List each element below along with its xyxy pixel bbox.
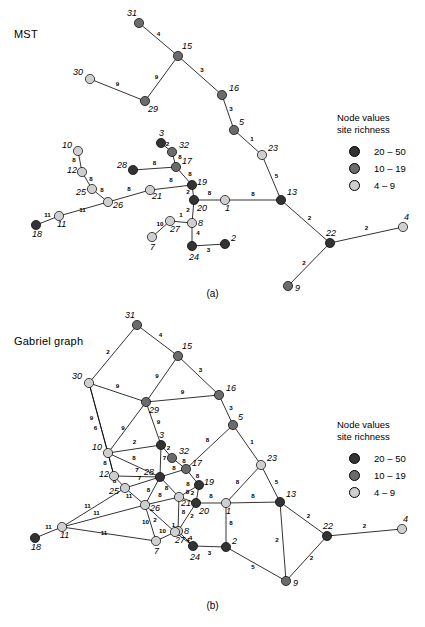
graph-node[interactable] (155, 472, 164, 481)
graph-edge (327, 529, 402, 536)
graph-node[interactable] (187, 180, 196, 189)
graph-node[interactable] (84, 378, 93, 387)
graph-node[interactable] (85, 74, 94, 83)
graph-node[interactable] (151, 536, 160, 545)
edge-weight-label: 2 (310, 554, 314, 561)
graph-node[interactable] (398, 222, 407, 231)
graph-node[interactable] (276, 195, 285, 204)
node-label: 11 (57, 219, 66, 229)
graph-node[interactable] (173, 351, 182, 360)
legend-a: Node values site richness 20 – 50 10 – 1… (337, 112, 406, 194)
edge-weight-label: 8 (169, 176, 173, 183)
legend-b-label-high: 20 – 50 (374, 453, 406, 464)
graph-node[interactable] (128, 165, 137, 174)
node-label: 17 (182, 156, 193, 166)
edge-weight-label: 8 (158, 491, 162, 498)
graph-node[interactable] (221, 542, 230, 551)
legend-a-head-1: Node values (337, 112, 406, 124)
graph-node[interactable] (156, 440, 165, 449)
graph-edge (178, 56, 222, 95)
graph-node[interactable] (134, 18, 143, 27)
graph-node[interactable] (132, 320, 141, 329)
edge-weight-label: 1 (179, 211, 183, 218)
graph-node[interactable] (281, 576, 290, 585)
edge-weight-label: 8 (236, 478, 240, 485)
graph-edge (234, 130, 262, 155)
node-label: 30 (72, 371, 82, 381)
legend-a-row-low: 4 – 9 (337, 177, 406, 194)
graph-node[interactable] (181, 464, 190, 473)
graph-node[interactable] (257, 150, 266, 159)
graph-node[interactable] (140, 500, 149, 509)
graph-node[interactable] (229, 125, 238, 134)
edge-weight-label: 7 (163, 454, 167, 461)
graph-node[interactable] (188, 541, 197, 550)
edge-weight-label: 2 (153, 516, 157, 523)
edge-weight-label: 8 (147, 486, 151, 493)
node-label: 5 (239, 117, 245, 127)
edge-weight-label: 11 (44, 211, 51, 218)
node-label: 18 (31, 542, 41, 552)
graph-node[interactable] (220, 239, 229, 248)
graph-node[interactable] (397, 524, 406, 533)
edge-weight-label: 11 (79, 206, 86, 213)
graph-node[interactable] (187, 218, 196, 227)
graph-node[interactable] (217, 90, 226, 99)
node-label: 32 (179, 140, 189, 150)
graph-node[interactable] (73, 146, 82, 155)
graph-node[interactable] (187, 241, 196, 250)
graph-node[interactable] (171, 162, 180, 171)
edge-weight-label: 11 (84, 502, 91, 509)
node-label: 23 (267, 143, 278, 153)
legend-b-row-mid: 10 – 19 (337, 467, 406, 484)
edge-weight-label: 2 (363, 522, 367, 529)
edge-weight-label: 10 (157, 220, 164, 227)
graph-edge (146, 356, 178, 402)
graph-node[interactable] (214, 390, 223, 399)
legend-a-label-high: 20 – 50 (374, 146, 406, 157)
graph-node[interactable] (87, 184, 96, 193)
edge-weight-label: 9 (116, 382, 120, 389)
graph-node[interactable] (275, 497, 284, 506)
graph-node[interactable] (228, 420, 237, 429)
edge-weight-label: 8 (251, 190, 255, 197)
graph-node[interactable] (173, 51, 182, 60)
edge-weight-label: 2 (190, 512, 194, 519)
graph-node[interactable] (103, 448, 112, 457)
graph-edge (233, 425, 261, 465)
panel-b-caption: (b) (0, 600, 425, 611)
edge-weight-label: 8 (186, 488, 190, 495)
edge-weight-label: 11 (93, 509, 100, 516)
graph-node[interactable] (156, 138, 165, 147)
edge-weight-label: 8 (182, 457, 186, 464)
graph-edge (62, 505, 145, 527)
node-label: 9 (293, 578, 298, 588)
edge-weight-label: 2 (186, 206, 190, 213)
edge-weight-label: 8 (186, 480, 190, 487)
graph-node[interactable] (77, 167, 86, 176)
edge-weight-label: 3 (208, 549, 212, 556)
graph-node[interactable] (147, 232, 156, 241)
graph-node[interactable] (256, 460, 265, 469)
graph-node[interactable] (109, 471, 118, 480)
edge-weight-label: 8 (103, 459, 107, 466)
graph-node[interactable] (325, 238, 334, 247)
node-label: 21 (151, 191, 162, 201)
edge-weight-label: 9 (155, 372, 159, 379)
edge-weight-label: 4 (157, 30, 161, 37)
edge-weight-label: 7 (138, 474, 142, 481)
edge-weight-label: 8 (132, 454, 136, 461)
edge-weight-label: 8 (172, 464, 176, 471)
node-label: 2 (231, 536, 237, 546)
graph-node[interactable] (194, 480, 203, 489)
graph-node[interactable] (103, 197, 112, 206)
edge-weight-label: 9 (181, 388, 185, 395)
edge-weight-label: 1 (250, 438, 254, 445)
graph-node[interactable] (322, 531, 331, 540)
node-label: 29 (148, 405, 159, 415)
legend-a-row-mid: 10 – 19 (337, 160, 406, 177)
graph-node[interactable] (120, 483, 129, 492)
graph-node[interactable] (167, 147, 176, 156)
edge-weight-label: 2 (133, 438, 137, 445)
graph-node[interactable] (167, 453, 176, 462)
